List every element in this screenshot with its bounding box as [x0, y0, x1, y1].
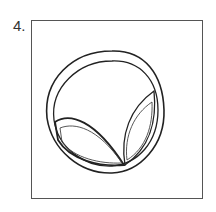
figure-drawing — [0, 0, 216, 212]
inner-circle — [54, 61, 158, 166]
outer-circle — [47, 51, 164, 173]
left-leaf-outer — [55, 118, 124, 165]
